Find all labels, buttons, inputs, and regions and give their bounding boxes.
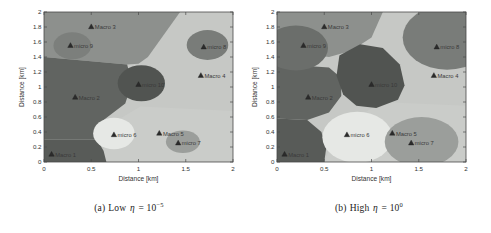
station-label: micro 9 (307, 43, 326, 49)
y-tick-label: 2 (271, 8, 275, 15)
y-tick-label: 1.6 (266, 38, 275, 45)
station-label: micro 7 (415, 140, 434, 146)
station-label: micro 7 (182, 140, 201, 146)
x-tick-label: 0.5 (87, 165, 96, 172)
y-tick-label: 1 (271, 83, 275, 90)
y-tick-label: 0.2 (33, 143, 42, 150)
station-label: Macro 5 (163, 131, 184, 137)
subcaption-b-equals: = (379, 203, 390, 213)
station-label: micro 9 (74, 43, 93, 49)
station-label: Macro 1 (55, 152, 76, 158)
station-label: micro 6 (118, 132, 137, 138)
y-tick-label: 1.8 (266, 23, 275, 30)
x-axis-label: Distance [km] (119, 175, 159, 183)
y-tick-label: 1.2 (33, 68, 42, 75)
y-tick-label: 0 (271, 158, 275, 165)
subcaption-b-label: High (350, 203, 370, 213)
station-label: Macro 3 (95, 24, 116, 30)
station-label: Macro 3 (328, 24, 349, 30)
subcaption-a-base: 10 (147, 203, 157, 213)
x-tick-label: 1 (370, 165, 374, 172)
y-axis-label: Distance [km] (18, 67, 26, 107)
y-tick-label: 0.4 (33, 128, 42, 135)
y-tick-label: 0.6 (266, 113, 275, 120)
y-tick-label: 0.6 (33, 113, 42, 120)
subcaption-b-base: 10 (390, 203, 400, 213)
y-tick-label: 0.2 (266, 143, 275, 150)
station-label: Macro 2 (312, 95, 333, 101)
x-tick-label: 0 (42, 165, 46, 172)
map-area: Macro 1Macro 2Macro 3Macro 4Macro 5micro… (264, 5, 479, 166)
subcaption-b-exponent: 0 (400, 201, 403, 208)
y-tick-label: 1.4 (33, 53, 42, 60)
station-label: micro 6 (351, 132, 370, 138)
x-tick-label: 1.5 (414, 165, 423, 172)
map-area: Macro 1Macro 2Macro 3Macro 4Macro 5micro… (44, 12, 233, 162)
y-tick-label: 1.6 (33, 38, 42, 45)
y-tick-label: 2 (38, 8, 42, 15)
y-tick-label: 0.8 (266, 98, 275, 105)
station-label: micro 10 (375, 82, 397, 88)
station-label: micro 8 (440, 44, 459, 50)
figure-panel-b: Macro 1Macro 2Macro 3Macro 4Macro 5micro… (233, 0, 479, 196)
x-tick-label: 0.5 (320, 165, 329, 172)
x-axis-label: Distance [km] (352, 175, 392, 183)
station-label: Macro 4 (437, 73, 459, 79)
y-tick-label: 1.2 (266, 68, 275, 75)
x-tick-label: 0 (275, 165, 279, 172)
y-tick-label: 0 (38, 158, 42, 165)
subcaption-a-index: (a) (94, 203, 105, 213)
subcaption-a-equals: = (136, 203, 147, 213)
station-label: Macro 2 (79, 95, 100, 101)
y-tick-label: 1.8 (33, 23, 42, 30)
y-tick-label: 1 (38, 83, 42, 90)
x-tick-label: 2 (464, 165, 468, 172)
y-tick-label: 0.4 (266, 128, 275, 135)
eta-symbol: η (372, 203, 379, 213)
coverage-map-a: Macro 1Macro 2Macro 3Macro 4Macro 5micro… (0, 0, 246, 196)
x-tick-label: 1.5 (181, 165, 190, 172)
subcaption-a-label: Low (108, 203, 126, 213)
coverage-map-b: Macro 1Macro 2Macro 3Macro 4Macro 5micro… (233, 0, 479, 196)
subcaption-a-exponent: −5 (156, 201, 163, 208)
subcaption-b: (b)High η = 100 (269, 203, 469, 219)
eta-symbol: η (129, 203, 136, 213)
y-tick-label: 0.8 (33, 98, 42, 105)
subcaption-a: (a)Low η = 10−5 (29, 203, 229, 219)
subcaption-b-index: (b) (335, 203, 347, 213)
figure-panel-a: Macro 1Macro 2Macro 3Macro 4Macro 5micro… (0, 0, 246, 196)
station-label: micro 8 (207, 44, 226, 50)
y-tick-label: 1.4 (266, 53, 275, 60)
station-label: micro 10 (142, 82, 164, 88)
station-label: Macro 5 (396, 131, 417, 137)
station-label: Macro 1 (288, 152, 309, 158)
station-label: Macro 4 (204, 73, 226, 79)
x-tick-label: 1 (137, 165, 141, 172)
y-axis-label: Distance [km] (251, 67, 259, 107)
